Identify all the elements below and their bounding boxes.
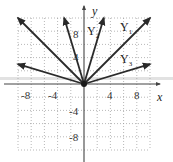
y-axis-label: y [91,4,98,18]
x-tick-label: 4 [107,89,113,101]
vector-label-y2: Y2 [87,24,100,40]
x-tick-label: 8 [134,89,140,101]
x-tick-label: -4 [48,89,58,101]
vector-plot: y x -8 -4 4 8 8 4 -4 -8 Y2 Y1 Y3 [0,0,173,162]
x-tick-label: -8 [21,89,31,101]
x-axis-label: x [156,90,163,104]
y-tick-label: 8 [73,28,79,40]
y-tick-label: -4 [69,105,79,117]
origin-point [81,81,87,87]
y-tick-label: -8 [69,131,79,143]
vector-label-y3: Y3 [120,52,133,68]
vector-label-y1: Y1 [120,20,133,36]
y-tick-label: 4 [73,51,79,63]
